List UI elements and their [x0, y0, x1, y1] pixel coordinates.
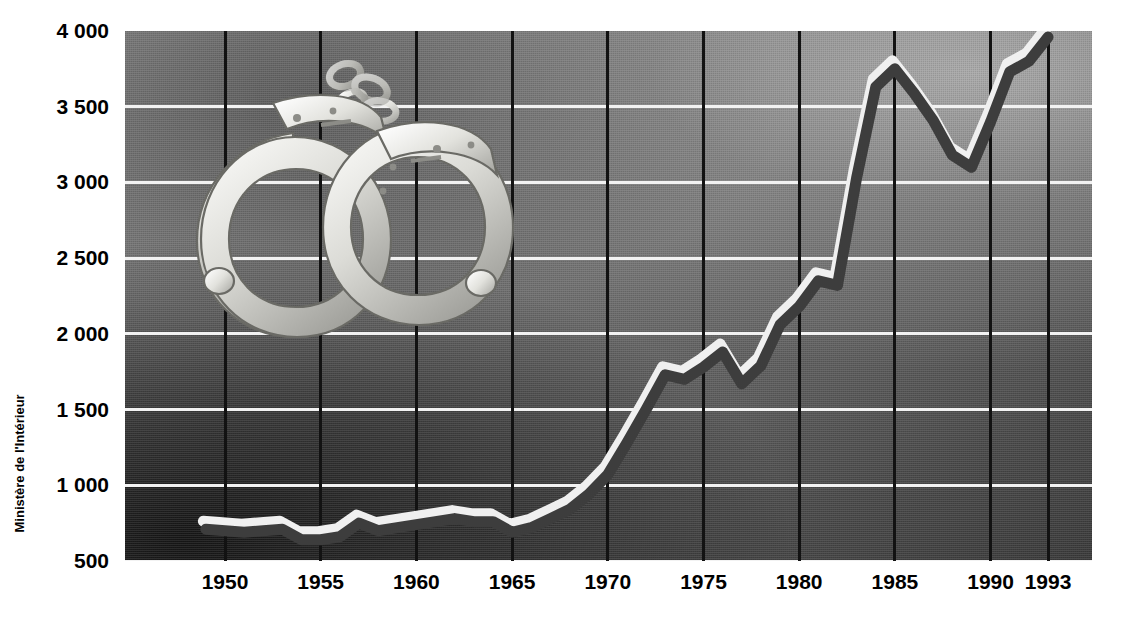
y-axis-labels: 4 0003 5003 0002 5002 0001 5001 000500	[0, 0, 117, 633]
y-axis-tick-label: 3 000	[56, 170, 109, 194]
data-series-line	[125, 31, 1092, 561]
y-axis-tick-label: 3 500	[56, 95, 109, 119]
y-axis-tick-label: 500	[74, 549, 109, 573]
y-axis-tick-label: 4 000	[56, 19, 109, 43]
x-axis-tick-label: 1955	[297, 570, 344, 594]
y-axis-tick-label: 2 500	[56, 246, 109, 270]
y-axis-tick-label: 1 500	[56, 398, 109, 422]
y-axis-tick-label: 2 000	[56, 322, 109, 346]
source-label: Ministère de l'Intérieur	[12, 403, 27, 533]
chart-title	[125, 31, 1092, 32]
x-axis-tick-label: 1990	[967, 570, 1014, 594]
x-axis-tick-label: 1985	[872, 570, 919, 594]
x-axis-tick-label: 1965	[489, 570, 536, 594]
x-axis-tick-label: 1970	[584, 570, 631, 594]
x-axis-tick-label: 1993	[1025, 570, 1072, 594]
x-axis-tick-label: 1975	[680, 570, 727, 594]
x-axis-tick-label: 1950	[202, 570, 249, 594]
y-axis-tick-label: 1 000	[56, 473, 109, 497]
series-stroke	[206, 37, 1048, 540]
chart-figure: 4 0003 5003 0002 5002 0001 5001 000500 M…	[0, 0, 1133, 633]
plot-area	[125, 31, 1092, 561]
x-axis-tick-label: 1980	[776, 570, 823, 594]
x-axis-tick-label: 1960	[393, 570, 440, 594]
